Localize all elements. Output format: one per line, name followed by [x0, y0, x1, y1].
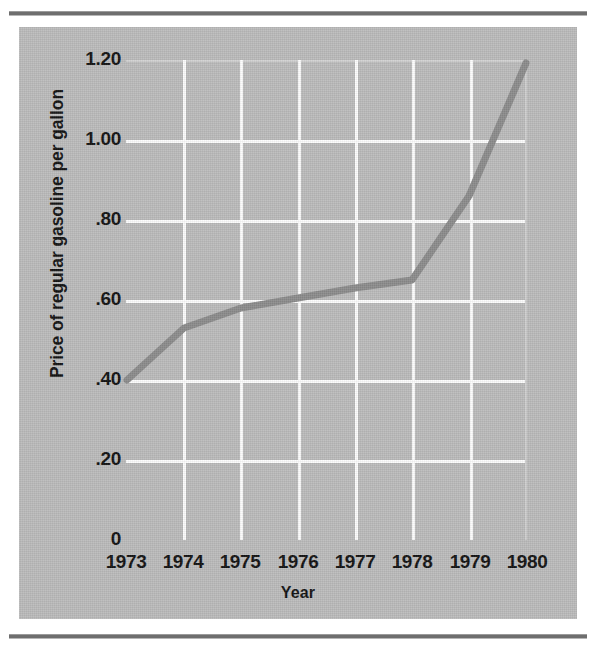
x-axis-tick-labels: 1973 1974 1975 1976 1977 1978 1979 1980	[126, 551, 527, 581]
plot-area	[126, 60, 527, 540]
y-tick-label-1-00: 1.00	[57, 128, 121, 150]
x-axis-title: Year	[19, 584, 577, 602]
chart-figure-panel: Price of regular gasoline per gallon 1.2…	[19, 27, 577, 619]
x-tick-label-1980: 1980	[492, 551, 562, 573]
bottom-divider-rule	[9, 634, 587, 639]
y-axis-tick-labels: 1.20 1.00 .80 .60 .40 .20 0	[49, 60, 121, 540]
y-tick-label-0-40: .40	[57, 368, 121, 390]
y-tick-label-1-20: 1.20	[57, 48, 121, 70]
y-tick-label-0-20: .20	[57, 448, 121, 470]
series-line-gasoline-price	[126, 60, 527, 540]
top-divider-rule	[9, 11, 587, 16]
y-tick-label-0-60: .60	[57, 288, 121, 310]
y-tick-label-0-80: .80	[57, 208, 121, 230]
y-tick-label-0: 0	[57, 528, 121, 550]
